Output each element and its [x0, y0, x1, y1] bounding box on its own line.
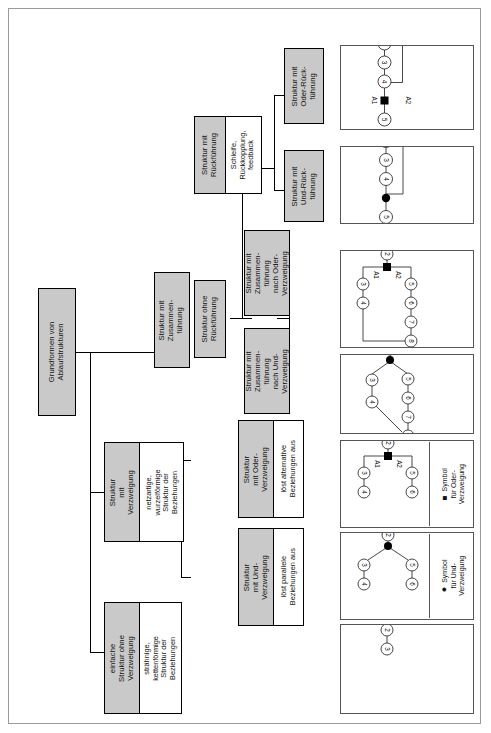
svg-text:3: 3: [360, 282, 367, 286]
connector-spine-1: [90, 352, 91, 652]
connector-to-ohne-verzweigung: [90, 652, 104, 653]
node-struktur-ohne-rueckfuehrung[interactable]: Struktur ohne Rückführung: [194, 280, 226, 358]
connector-ohne-rueck-out: [277, 318, 289, 319]
legend-und: ● Symbol für Und- Verzweigung: [433, 539, 473, 613]
legend-oder-symbol-icon: ■: [440, 495, 449, 500]
panel-und-rueckfuehrung: 12 34 56 R: [340, 146, 474, 224]
node-struktur-mit-rueckfuehrung-label: Struktur mit Rückführung: [201, 133, 219, 177]
svg-text:5: 5: [408, 282, 415, 286]
panel-und-verzweigung: 12 34 56 ● Symbol für Und- Verzweigung: [340, 532, 474, 620]
svg-text:5: 5: [405, 377, 412, 381]
node-struktur-mit-oder-verzweigung[interactable]: Struktur mit Oder- Verzweigung: [238, 420, 274, 518]
desc-struktur-mit-oder-verzweigung-text: löst alternative Beziehungen aus: [280, 440, 297, 497]
node-struktur-mit-und-verzweigung[interactable]: Struktur mit Und- Verzweigung: [238, 528, 274, 626]
svg-text:A2: A2: [395, 271, 402, 279]
legend-separator-und: [429, 534, 430, 618]
svg-text:7: 7: [405, 415, 412, 419]
connector-to-oder-rueck: [274, 95, 284, 96]
svg-text:3: 3: [361, 471, 368, 475]
node-zusammenfuehrung-nach-oder[interactable]: Struktur mit Zusammen- führung nach Oder…: [244, 230, 290, 316]
svg-text:5: 5: [381, 118, 388, 122]
svg-text:2: 2: [384, 252, 391, 256]
connector-to-und-rueck: [274, 190, 284, 191]
svg-text:3: 3: [361, 563, 368, 567]
node-struktur-mit-oder-rueckfuehrung[interactable]: Struktur mit Oder-Rück- führung: [284, 48, 324, 124]
connector-to-und-verzweigung: [181, 577, 191, 578]
legend-und-symbol-icon: ●: [439, 587, 449, 592]
connector-zf-out: [230, 318, 242, 319]
panel-zusammenfuehrung-oder: 12 34 56 78 A2 A1: [340, 250, 474, 348]
legend-separator-oder: [429, 442, 430, 526]
svg-text:6: 6: [405, 396, 412, 400]
svg-text:7: 7: [408, 320, 415, 324]
connector-to-mit-verzweigung: [90, 492, 104, 493]
svg-text:2: 2: [385, 533, 392, 537]
svg-text:4: 4: [361, 582, 368, 586]
svg-text:4: 4: [360, 301, 367, 305]
svg-text:4: 4: [369, 400, 376, 404]
desc-struktur-mit-oder-verzweigung: löst alternative Beziehungen aus: [274, 420, 304, 518]
svg-text:2: 2: [384, 628, 391, 632]
svg-text:4: 4: [381, 80, 388, 84]
node-struktur-mit-oder-rueckfuehrung-label: Struktur mit Oder-Rück- führung: [291, 66, 318, 106]
node-zusammenfuehrung-nach-oder-label: Struktur mit Zusammen- führung nach Oder…: [245, 251, 290, 296]
svg-text:6: 6: [409, 490, 416, 494]
node-struktur-mit-zusammenfuehrung[interactable]: Struktur mit Zusammen- führung: [154, 272, 190, 368]
node-struktur-mit-und-rueckfuehrung[interactable]: Struktur mit Und-Rück- führung: [284, 150, 324, 222]
svg-text:5: 5: [409, 471, 416, 475]
diagram-page: Grundformen von Ablaufstrukturen einfach…: [0, 0, 491, 733]
node-struktur-ohne-verzweigung[interactable]: einfache Struktur ohne Verzweigung: [104, 602, 140, 714]
desc-struktur-mit-rueckfuehrung: Schleife, Rückkopplung, feedback: [226, 116, 262, 194]
desc-struktur-ohne-verzweigung: strähnige, kettenförmige Struktur der Be…: [140, 602, 182, 714]
svg-text:5: 5: [383, 215, 390, 219]
svg-text:3: 3: [384, 647, 391, 651]
svg-text:A1: A1: [374, 460, 381, 468]
connector-to-ohne-rueck: [242, 318, 252, 319]
svg-text:8: 8: [408, 339, 415, 343]
desc-struktur-ohne-verzweigung-text: strähnige, kettenförmige Struktur der Be…: [143, 636, 178, 681]
node-struktur-ohne-rueckfuehrung-label: Struktur ohne Rückführung: [201, 296, 219, 343]
svg-text:4: 4: [383, 177, 390, 181]
desc-struktur-mit-und-verzweigung-text: löst parallele Beziehungen aus: [280, 548, 297, 605]
svg-text:2: 2: [385, 441, 392, 445]
svg-text:A1: A1: [371, 97, 378, 105]
desc-struktur-mit-rueckfuehrung-text: Schleife, Rückkopplung, feedback: [230, 131, 256, 180]
connector-zf-in: [104, 352, 154, 353]
panel-ohne-verzweigung: 123: [340, 624, 474, 714]
svg-text:6: 6: [409, 582, 416, 586]
node-struktur-mit-verzweigung[interactable]: Struktur mit Verzweigung: [104, 442, 140, 542]
node-root[interactable]: Grundformen von Ablaufstrukturen: [38, 288, 76, 416]
node-struktur-mit-verzweigung-label: Struktur mit Verzweigung: [109, 470, 136, 515]
svg-text:5: 5: [409, 563, 416, 567]
svg-text:3: 3: [369, 378, 376, 382]
svg-text:A2: A2: [405, 97, 412, 105]
connector-root-to-zusammen: [90, 352, 104, 353]
legend-oder: ■ Symbol für Oder- Verzweigung: [433, 447, 473, 521]
node-struktur-mit-zusammenfuehrung-label: Struktur mit Zusammen- führung: [159, 299, 186, 340]
desc-struktur-mit-und-verzweigung: löst parallele Beziehungen aus: [274, 528, 304, 626]
panel-zusammenfuehrung-und: 12 34 56 78: [340, 354, 474, 434]
panel-oder-rueckfuehrung: 12 34 56 R A2 A1: [340, 45, 474, 130]
svg-text:A1: A1: [373, 271, 380, 279]
connector-root-out: [76, 352, 90, 353]
node-struktur-ohne-verzweigung-label: einfache Struktur ohne Verzweigung: [109, 635, 136, 682]
node-zusammenfuehrung-nach-und[interactable]: Struktur mit Zusammen- führung nach Und-…: [244, 328, 290, 414]
node-struktur-mit-und-rueckfuehrung-label: Struktur mit Und-Rück- führung: [291, 166, 318, 206]
node-struktur-mit-rueckfuehrung[interactable]: Struktur mit Rückführung: [194, 116, 226, 194]
node-struktur-mit-und-verzweigung-label: Struktur mit Und- Verzweigung: [243, 555, 270, 600]
connector-mit-rueck-out: [262, 168, 274, 169]
svg-text:A2: A2: [396, 460, 403, 468]
svg-text:3: 3: [383, 158, 390, 162]
connector-spine-5: [274, 95, 275, 190]
desc-struktur-mit-verzweigung: netzartige, wurzelförmige Struktur der B…: [140, 442, 184, 542]
svg-text:3: 3: [381, 61, 388, 65]
desc-struktur-mit-verzweigung-text: netzartige, wurzelförmige Struktur der B…: [144, 469, 179, 515]
svg-text:6: 6: [408, 301, 415, 305]
svg-text:4: 4: [361, 490, 368, 494]
node-zusammenfuehrung-nach-und-label: Struktur mit Zusammen- führung nach Und-…: [245, 349, 290, 394]
panel-oder-verzweigung: 12 34 56 A2 A1 ■ Symbol für Oder- Verzwe…: [340, 440, 474, 528]
node-struktur-mit-oder-verzweigung-label: Struktur mit Oder- Verzweigung: [243, 447, 270, 492]
node-root-label: Grundformen von Ablaufstrukturen: [48, 322, 66, 383]
